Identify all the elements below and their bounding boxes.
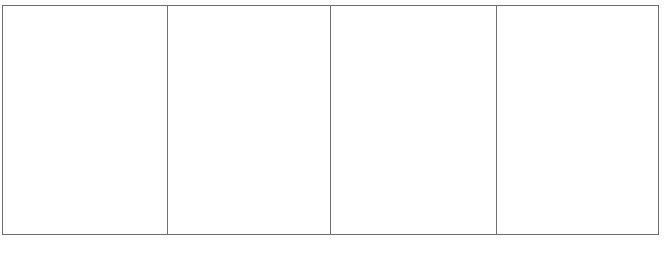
image-panel-4 [497,6,658,234]
image-grid [2,5,659,235]
image-panel-3 [331,6,497,234]
image-panel-2 [168,6,331,234]
image-panel-1 [3,6,168,234]
